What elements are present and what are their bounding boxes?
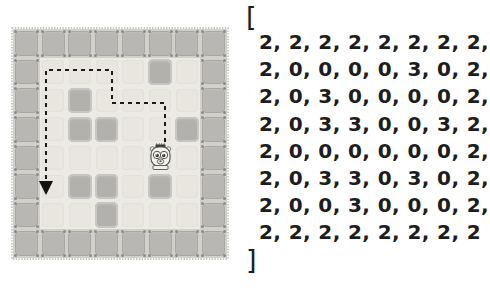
wall-tile[interactable]	[13, 201, 40, 230]
wall-stud	[223, 225, 226, 228]
floor-tile[interactable]	[147, 86, 174, 115]
floor-tile[interactable]	[147, 201, 174, 230]
block-tile[interactable]	[67, 86, 94, 115]
floor-tile[interactable]	[174, 172, 201, 201]
wall-stud	[14, 173, 17, 176]
tile-grid[interactable]	[13, 29, 227, 258]
wall-stud	[41, 254, 44, 257]
floor-tile[interactable]	[40, 86, 67, 115]
wall-tile[interactable]	[13, 172, 40, 201]
floor-tile[interactable]	[120, 115, 147, 144]
wall-stud	[148, 230, 151, 233]
floor-tile[interactable]	[93, 144, 120, 173]
wall-stud	[36, 140, 39, 143]
wall-tile[interactable]	[200, 144, 227, 173]
floor-tile[interactable]	[40, 144, 67, 173]
block-tile[interactable]	[67, 115, 94, 144]
wall-tile[interactable]	[200, 58, 227, 87]
wall-stud	[14, 82, 17, 85]
wall-tile[interactable]	[120, 229, 147, 258]
wall-tile[interactable]	[67, 29, 94, 58]
wall-stud	[201, 82, 204, 85]
wall-tile[interactable]	[13, 86, 40, 115]
wall-tile[interactable]	[93, 29, 120, 58]
floor-tile[interactable]	[40, 201, 67, 230]
floor-tile[interactable]	[120, 58, 147, 87]
wall-stud	[116, 54, 119, 57]
wall-stud	[196, 30, 199, 33]
floor-tile[interactable]	[174, 144, 201, 173]
wall-tile[interactable]	[200, 115, 227, 144]
floor-tile[interactable]	[67, 144, 94, 173]
floor-tile[interactable]	[40, 115, 67, 144]
wall-tile[interactable]	[13, 115, 40, 144]
floor-tile[interactable]	[93, 86, 120, 115]
floor-tile[interactable]	[67, 58, 94, 87]
wall-stud	[201, 202, 204, 205]
wall-stud	[68, 30, 71, 33]
wall-tile[interactable]	[200, 201, 227, 230]
wall-tile[interactable]	[200, 86, 227, 115]
floor-tile[interactable]	[147, 115, 174, 144]
wall-stud	[89, 54, 92, 57]
wall-tile[interactable]	[13, 144, 40, 173]
wall-stud	[223, 145, 226, 148]
wall-stud	[201, 254, 204, 257]
wall-stud	[36, 30, 39, 33]
floor-tile[interactable]	[40, 172, 67, 201]
floor-tile[interactable]	[120, 144, 147, 173]
wall-tile[interactable]	[13, 29, 40, 58]
wall-tile[interactable]	[174, 29, 201, 58]
wall-stud	[36, 197, 39, 200]
wall-tile[interactable]	[93, 229, 120, 258]
game-board[interactable]	[13, 29, 227, 258]
block-tile[interactable]	[93, 201, 120, 230]
floor-tile[interactable]	[120, 86, 147, 115]
wall-tile[interactable]	[13, 229, 40, 258]
floor-tile[interactable]	[174, 86, 201, 115]
block-tile[interactable]	[174, 115, 201, 144]
wall-stud	[63, 230, 66, 233]
wall-stud	[36, 225, 39, 228]
floor-tile[interactable]	[93, 58, 120, 87]
floor-tile[interactable]	[120, 201, 147, 230]
wall-tile[interactable]	[200, 229, 227, 258]
wall-tile[interactable]	[40, 29, 67, 58]
wall-tile[interactable]	[40, 229, 67, 258]
wall-tile[interactable]	[147, 29, 174, 58]
wall-stud	[68, 254, 71, 257]
wall-stud	[201, 30, 204, 33]
wall-tile[interactable]	[200, 29, 227, 58]
floor-tile[interactable]	[174, 201, 201, 230]
block-tile[interactable]	[93, 115, 120, 144]
block-tile[interactable]	[147, 58, 174, 87]
wall-stud	[201, 168, 204, 171]
matrix-row: 2, 0, 3, 0, 0, 0, 0, 2,	[259, 83, 485, 110]
floor-tile[interactable]	[40, 58, 67, 87]
wall-tile[interactable]	[67, 229, 94, 258]
wall-tile[interactable]	[174, 229, 201, 258]
floor-tile[interactable]	[67, 201, 94, 230]
wall-stud	[201, 225, 204, 228]
wall-tile[interactable]	[120, 29, 147, 58]
matrix-row: 2, 0, 3, 3, 0, 0, 3, 2,	[259, 111, 485, 138]
wall-stud	[148, 30, 151, 33]
wall-stud	[14, 59, 17, 62]
floor-tile[interactable]	[174, 58, 201, 87]
wall-stud	[14, 87, 17, 90]
block-tile[interactable]	[67, 172, 94, 201]
wall-stud	[201, 54, 204, 57]
wall-stud	[36, 230, 39, 233]
block-tile[interactable]	[147, 172, 174, 201]
wall-stud	[116, 230, 119, 233]
wall-stud	[121, 30, 124, 33]
wall-stud	[201, 173, 204, 176]
floor-tile[interactable]	[120, 172, 147, 201]
wall-tile[interactable]	[13, 58, 40, 87]
wall-stud	[89, 30, 92, 33]
wall-tile[interactable]	[200, 172, 227, 201]
robot-character[interactable]	[147, 143, 174, 171]
wall-tile[interactable]	[147, 229, 174, 258]
block-tile[interactable]	[93, 172, 120, 201]
wall-stud	[223, 202, 226, 205]
